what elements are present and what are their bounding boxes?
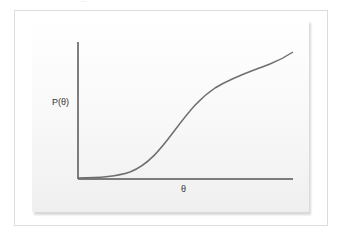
icc-curve	[78, 52, 293, 178]
chart-plot	[0, 0, 341, 239]
x-axis-label: θ	[181, 184, 186, 194]
y-axis-label: P(θ)	[52, 97, 69, 107]
